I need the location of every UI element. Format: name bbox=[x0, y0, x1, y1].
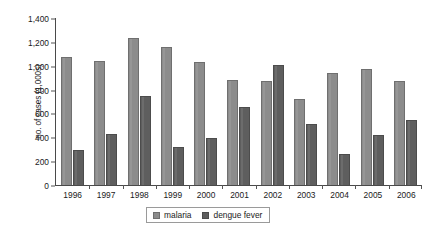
y-axis-tick-label: 600 bbox=[7, 109, 55, 119]
bar-malaria-2005[interactable] bbox=[361, 69, 372, 185]
bar-dengue-fever-1999[interactable] bbox=[173, 147, 184, 185]
x-axis-label-2005: 2005 bbox=[356, 190, 389, 200]
x-axis-label-2006: 2006 bbox=[390, 190, 423, 200]
legend-label: dengue fever bbox=[213, 210, 262, 220]
y-axis-tick-label: 1,200 bbox=[7, 38, 55, 48]
bar-group bbox=[56, 19, 89, 185]
bar-malaria-1999[interactable] bbox=[161, 47, 172, 184]
x-axis-tick-mark bbox=[421, 185, 422, 189]
y-axis-tick-mark bbox=[51, 19, 55, 20]
bar-group bbox=[123, 19, 156, 185]
x-axis-label-1998: 1998 bbox=[123, 190, 156, 200]
legend-swatch-icon bbox=[202, 212, 209, 219]
bar-dengue-fever-1997[interactable] bbox=[106, 134, 117, 185]
legend-entry-dengue-fever[interactable]: dengue fever bbox=[202, 210, 262, 220]
x-axis-tick-mark bbox=[123, 185, 124, 189]
x-axis-line bbox=[55, 185, 422, 186]
bar-group bbox=[189, 19, 222, 185]
y-axis-tick-label: 1,400 bbox=[7, 14, 55, 24]
y-axis-tick-mark bbox=[51, 66, 55, 67]
bar-dengue-fever-2002[interactable] bbox=[273, 65, 284, 185]
y-axis-tick-label: 1,000 bbox=[7, 62, 55, 72]
bar-group bbox=[289, 19, 322, 185]
bar-group bbox=[222, 19, 255, 185]
bar-group bbox=[389, 19, 422, 185]
bar-group bbox=[156, 19, 189, 185]
y-axis-tick-label: 200 bbox=[7, 157, 55, 167]
bar-dengue-fever-2004[interactable] bbox=[339, 154, 350, 184]
x-axis-tick-mark bbox=[289, 185, 290, 189]
bar-dengue-fever-2005[interactable] bbox=[373, 135, 384, 185]
x-axis-tick-mark bbox=[355, 185, 356, 189]
y-axis-tick-label: 0 bbox=[7, 181, 55, 191]
bar-dengue-fever-1996[interactable] bbox=[73, 150, 84, 185]
bar-groups bbox=[56, 19, 422, 185]
bar-group bbox=[89, 19, 122, 185]
y-axis-tick-mark bbox=[51, 42, 55, 43]
x-axis-tick-mark bbox=[189, 185, 190, 189]
bar-malaria-2002[interactable] bbox=[261, 81, 272, 184]
bar-dengue-fever-2001[interactable] bbox=[239, 107, 250, 185]
x-axis-label-1999: 1999 bbox=[156, 190, 189, 200]
bar-malaria-1996[interactable] bbox=[61, 57, 72, 185]
bar-malaria-2001[interactable] bbox=[227, 80, 238, 184]
x-axis-tick-mark bbox=[322, 185, 323, 189]
x-axis-label-2001: 2001 bbox=[223, 190, 256, 200]
y-axis-tick-label: 400 bbox=[7, 133, 55, 143]
y-axis-tick-mark bbox=[51, 186, 55, 187]
bar-malaria-2003[interactable] bbox=[294, 99, 305, 184]
bar-malaria-1997[interactable] bbox=[94, 61, 105, 185]
bar-group bbox=[256, 19, 289, 185]
bar-dengue-fever-2003[interactable] bbox=[306, 124, 317, 185]
plot-area: 1,4001,2001,0008006004002000 bbox=[55, 19, 422, 186]
y-axis-tick-mark bbox=[51, 114, 55, 115]
x-axis-tick-mark bbox=[156, 185, 157, 189]
bar-group bbox=[355, 19, 388, 185]
x-axis-label-1996: 1996 bbox=[56, 190, 89, 200]
bar-malaria-1998[interactable] bbox=[128, 38, 139, 185]
bar-malaria-2006[interactable] bbox=[394, 81, 405, 185]
bar-group bbox=[322, 19, 355, 185]
bar-malaria-2004[interactable] bbox=[327, 73, 338, 185]
x-axis-tick-mark bbox=[256, 185, 257, 189]
x-axis-label-2003: 2003 bbox=[290, 190, 323, 200]
x-axis-tick-mark bbox=[389, 185, 390, 189]
bar-chart: no. of cases (1,000s) 1,4001,2001,000800… bbox=[0, 0, 429, 229]
chart-legend: malariadengue fever bbox=[146, 207, 270, 223]
x-axis-label-1997: 1997 bbox=[89, 190, 122, 200]
x-axis-label-2004: 2004 bbox=[323, 190, 356, 200]
x-axis-label-2000: 2000 bbox=[189, 190, 222, 200]
bar-dengue-fever-1998[interactable] bbox=[140, 96, 151, 184]
bar-dengue-fever-2000[interactable] bbox=[206, 138, 217, 185]
y-axis-tick-mark bbox=[51, 162, 55, 163]
x-axis-tick-mark bbox=[222, 185, 223, 189]
y-axis-tick-mark bbox=[51, 138, 55, 139]
legend-label: malaria bbox=[164, 210, 191, 220]
y-axis-tick-label: 800 bbox=[7, 86, 55, 96]
bar-dengue-fever-2006[interactable] bbox=[406, 120, 417, 185]
x-axis-labels: 1996199719981999200020012002200320042005… bbox=[56, 190, 423, 200]
y-axis-tick-mark bbox=[51, 90, 55, 91]
legend-swatch-icon bbox=[153, 212, 160, 219]
x-axis-tick-mark bbox=[89, 185, 90, 189]
bar-malaria-2000[interactable] bbox=[194, 62, 205, 185]
legend-entry-malaria[interactable]: malaria bbox=[153, 210, 191, 220]
x-axis-label-2002: 2002 bbox=[256, 190, 289, 200]
